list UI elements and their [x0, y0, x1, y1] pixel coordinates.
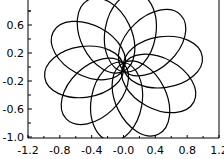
x-tick-label: -0.0 [113, 144, 134, 157]
petal [41, 9, 135, 91]
petal-curves [41, 0, 206, 145]
y-tick-label: -0.2 [3, 75, 24, 88]
y-tick-label: -1.0 [3, 131, 24, 144]
x-tick-label: -0.8 [49, 144, 70, 157]
y-tick-label: -0.6 [3, 103, 24, 116]
petal [112, 42, 206, 124]
y-tick-label: 0.2 [7, 47, 25, 60]
x-tick-label: 0.4 [147, 144, 165, 157]
x-tick-label: 0.8 [178, 144, 196, 157]
flower-curve-chart: -1.2-0.8-0.4-0.00.40.81.2-1.0-0.6-0.20.2… [0, 0, 224, 159]
x-tick-label: -0.4 [81, 144, 102, 157]
x-tick-label: 1.2 [210, 144, 224, 157]
y-tick-label: 0.6 [7, 19, 25, 32]
x-tick-label: -1.2 [17, 144, 38, 157]
